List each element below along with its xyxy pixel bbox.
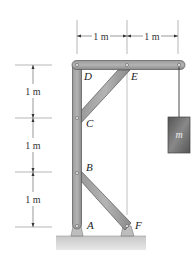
pin-c <box>75 116 78 119</box>
ground <box>56 236 146 250</box>
top-dimensions: 1 m 1 m <box>77 20 178 54</box>
label-d: D <box>83 70 92 82</box>
pins <box>75 63 180 227</box>
pin-d <box>75 63 78 66</box>
dim-left-dc: 1 m <box>25 86 41 97</box>
label-e: E <box>130 70 138 82</box>
label-f: F <box>134 219 142 231</box>
dim-top-e-end: 1 m <box>144 31 160 42</box>
dim-top-de: 1 m <box>93 31 109 42</box>
mass-label: m <box>175 129 182 140</box>
label-a: A <box>86 219 94 231</box>
label-b: B <box>86 161 93 173</box>
pin-end <box>177 63 180 66</box>
dim-left-ba: 1 m <box>25 194 41 205</box>
left-dimensions: 1 m 1 m 1 m <box>15 65 52 227</box>
member-ad <box>73 62 82 229</box>
pin-b <box>75 171 78 174</box>
label-c: C <box>86 117 94 129</box>
pin-f <box>125 224 128 227</box>
pin-e <box>125 63 128 66</box>
pin-a <box>75 224 78 227</box>
dim-left-cb: 1 m <box>25 140 41 151</box>
frame-diagram: 1 m 1 m 1 m 1 m 1 m <box>0 0 196 261</box>
